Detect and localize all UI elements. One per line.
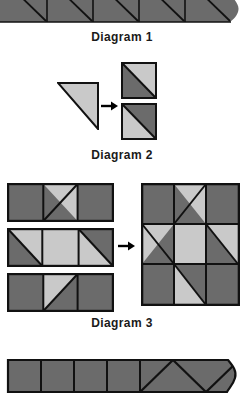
diagram-3-row-3: [7, 273, 114, 312]
arrow-diagram-3: [118, 240, 136, 252]
caption-diagram-2: Diagram 2: [0, 148, 244, 162]
arrow-diagram-2: [101, 100, 119, 112]
diagram-3-row-2: [7, 228, 114, 267]
bottom-strip: [0, 358, 244, 399]
diagram-page: Diagram 1: [0, 0, 244, 399]
diagram-1-strip: [0, 0, 244, 26]
diagram-2-group: [0, 62, 244, 160]
diagram-3-row-1: [7, 183, 114, 222]
diagram-3-group: [0, 180, 244, 310]
half-square-unit-b: [121, 103, 157, 140]
half-square-unit-a: [121, 62, 157, 99]
caption-diagram-3: Diagram 3: [0, 316, 244, 330]
caption-diagram-1: Diagram 1: [0, 30, 244, 44]
friendship-star-block: [141, 183, 240, 306]
source-triangle: [57, 82, 99, 130]
